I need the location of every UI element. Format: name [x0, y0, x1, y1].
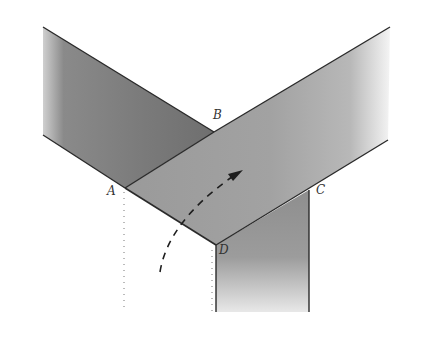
- folded-strip-diagram: [0, 0, 421, 342]
- label-d: D: [219, 244, 229, 256]
- label-b: B: [213, 109, 222, 121]
- label-a: A: [107, 185, 116, 197]
- label-c: C: [316, 184, 325, 196]
